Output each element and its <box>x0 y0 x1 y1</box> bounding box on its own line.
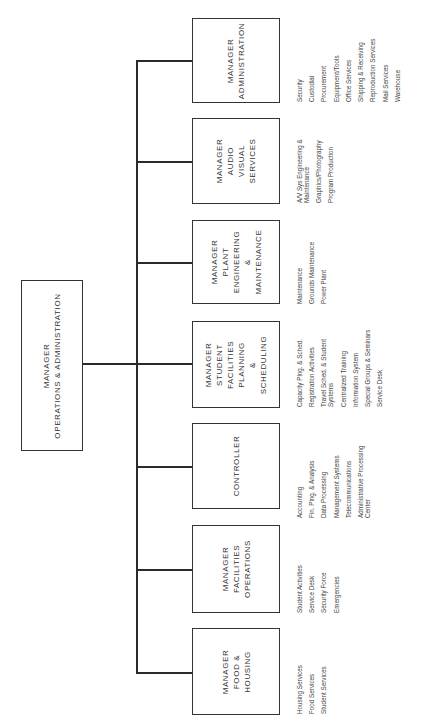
list-item: Reproduction Services <box>370 39 377 102</box>
list-item: Program Production <box>328 139 335 203</box>
list-item: Housing Services <box>297 665 304 714</box>
list-item: Management Systems <box>334 446 341 518</box>
list-item: Grounds Maintenance <box>309 242 316 304</box>
list-item: Service Desk <box>377 330 384 407</box>
box-controller: CONTROLLER <box>192 423 280 509</box>
connector-controller <box>136 466 193 468</box>
box-facilities-operations: MANAGER FACILITIES OPERATIONS <box>192 525 280 613</box>
items-student-facilities: Capacity Plng. & Sched. Registration Act… <box>297 330 389 407</box>
list-item: Office Services <box>346 39 353 102</box>
items-audio-visual: A/V Sys Engineering & Maintenance Graphi… <box>297 139 341 203</box>
box-label-student-facilities: MANAGER STUDENT FACILITIES PLANNING & SC… <box>203 335 269 393</box>
list-item: Student Services <box>321 665 328 714</box>
list-item: Service Desk <box>309 565 316 613</box>
list-item: Registration Activities <box>309 330 316 407</box>
items-controller: Accounting Fin. Plng. & Analysis Data Pr… <box>297 446 377 518</box>
list-item: Systems <box>328 330 335 407</box>
list-item: Emergencies <box>334 565 341 613</box>
items-facilities-operations: Student Activities Service Desk Security… <box>297 565 346 613</box>
list-item: Data Processing <box>321 446 328 518</box>
list-item: Maintenance <box>297 242 304 304</box>
list-item: Information System <box>353 330 360 407</box>
list-item: Telecommunications <box>346 446 353 518</box>
box-label-controller: CONTROLLER <box>231 436 242 497</box>
list-item: Student Activities <box>297 565 304 613</box>
items-administration: Security Custodial Procurement Equipment… <box>297 39 407 102</box>
connector-student-facilities <box>136 363 193 365</box>
spine-line <box>136 60 138 673</box>
list-item: Security <box>297 39 304 102</box>
list-item: Power Plant <box>321 242 328 304</box>
list-item: Custodial <box>309 39 316 102</box>
box-audio-visual: MANAGER AUDIO VISUAL SERVICES <box>192 118 280 204</box>
list-item: Special Groups & Seminars <box>365 330 372 407</box>
connector-plant-engineering <box>136 262 193 264</box>
box-food-housing: MANAGER FOOD & HOUSING <box>192 628 280 715</box>
box-plant-engineering: MANAGER PLANT ENGINEERING & MAINTENANCE <box>192 220 280 304</box>
list-item: Fin. Plng. & Analysis <box>309 446 316 518</box>
list-item: Center <box>365 446 372 518</box>
connector-administration <box>136 60 193 62</box>
box-administration: MANAGER ADMINISTRATION <box>192 18 280 103</box>
connector-audio-visual <box>136 161 193 163</box>
root-box-operations-administration: MANAGER OPERATIONS & ADMINISTRATION <box>21 280 83 451</box>
items-plant-engineering: Maintenance Grounds Maintenance Power Pl… <box>297 242 334 304</box>
connector-facilities-operations <box>136 569 193 571</box>
box-label-food-housing: MANAGER FOOD & HOUSING <box>220 649 253 694</box>
list-item: Food Services <box>309 665 316 714</box>
list-item: Security Force <box>321 565 328 613</box>
list-item: Centralized Training <box>341 330 348 407</box>
list-item: Equipment/Tools <box>334 39 341 102</box>
box-label-facilities-operations: MANAGER FACILITIES OPERATIONS <box>220 540 253 598</box>
box-label-audio-visual: MANAGER AUDIO VISUAL SERVICES <box>214 138 258 183</box>
items-food-housing: Housing Services Food Services Student S… <box>297 665 334 714</box>
connector-food-housing <box>136 672 193 674</box>
list-item: Maintenance <box>304 139 311 203</box>
list-item: Capacity Plng. & Sched. <box>297 330 304 407</box>
root-box-label: MANAGER OPERATIONS & ADMINISTRATION <box>41 293 63 438</box>
list-item: Shipping & Receiving <box>358 39 365 102</box>
box-student-facilities: MANAGER STUDENT FACILITIES PLANNING & SC… <box>192 321 280 408</box>
box-label-plant-engineering: MANAGER PLANT ENGINEERING & MAINTENANCE <box>209 230 264 295</box>
box-label-administration: MANAGER ADMINISTRATION <box>225 22 247 98</box>
list-item: Warehouse <box>395 39 402 102</box>
list-item: Accounting <box>297 446 304 518</box>
root-connector <box>82 363 138 365</box>
list-item: Procurement <box>321 39 328 102</box>
list-item: Graphics/Photography <box>316 139 323 203</box>
list-item: Mail Services <box>383 39 390 102</box>
